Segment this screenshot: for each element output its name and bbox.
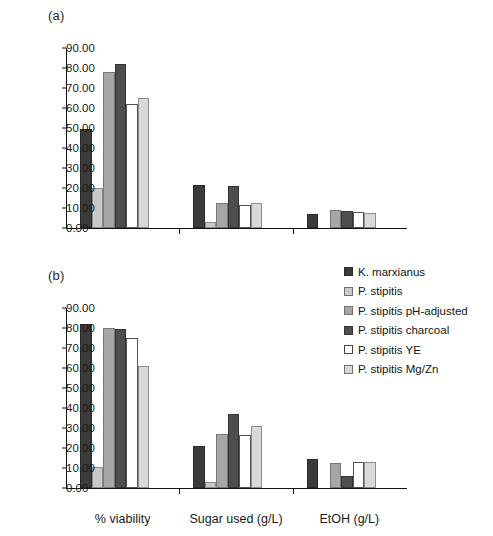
y-axis-tick-label: 30.00 (66, 422, 72, 434)
x-axis-line-b (66, 488, 407, 489)
y-axis-tick-label: 40.00 (66, 142, 72, 154)
bar (307, 214, 319, 228)
bar (103, 72, 115, 228)
y-axis-tick-label: 10.00 (66, 202, 72, 214)
bar (251, 203, 263, 228)
legend-swatch-icon (344, 326, 353, 335)
y-axis-tick-label: 90.00 (66, 42, 72, 54)
y-axis-tick-mark (62, 208, 66, 209)
bar (115, 64, 127, 228)
x-axis-category-labels: % viabilitySugar used (g/L)EtOH (g/L) (66, 508, 407, 530)
chart-panel-a: 0.0010.0020.0030.0040.0050.0060.0070.008… (0, 40, 420, 245)
bar (341, 211, 353, 228)
y-axis-tick-label: 10.00 (66, 462, 72, 474)
bar (126, 338, 138, 488)
legend-swatch-icon (344, 287, 353, 296)
bar-group (293, 48, 406, 228)
y-axis-tick-label: 70.00 (66, 82, 72, 94)
y-axis-tick-label: 30.00 (66, 162, 72, 174)
figure-bar-charts: (a) 0.0010.0020.0030.0040.0050.0060.0070… (0, 0, 493, 536)
legend-item: P. stipitis charcoal (344, 321, 493, 341)
legend-item-label: P. stipitis charcoal (358, 324, 449, 336)
bar-group (179, 48, 292, 228)
chart-legend: K. marxianusP. stipitisP. stipitis pH-ad… (344, 262, 493, 379)
y-axis-tick-label: 20.00 (66, 442, 72, 454)
bar (239, 435, 251, 488)
bar (216, 203, 228, 228)
bar (364, 213, 376, 228)
y-axis-tick-mark (62, 148, 66, 149)
bar (251, 426, 263, 488)
bar (330, 210, 342, 228)
y-axis-tick-label: 20.00 (66, 182, 72, 194)
bar (341, 476, 353, 488)
y-axis-tick-label: 60.00 (66, 362, 72, 374)
y-axis-tick-label: 90.00 (66, 302, 72, 314)
x-axis-line-a (66, 228, 407, 229)
y-axis-tick-label: 60.00 (66, 102, 72, 114)
bar (205, 222, 217, 228)
y-axis-tick-label: 50.00 (66, 122, 72, 134)
y-axis-tick-label: 50.00 (66, 382, 72, 394)
y-axis-tick-label: 0.00 (66, 482, 72, 494)
x-axis-category-label: Sugar used (g/L) (189, 512, 282, 526)
y-axis-tick-mark (62, 348, 66, 349)
legend-item-label: P. stipitis pH-adjusted (358, 305, 468, 317)
y-axis-tick-mark (62, 428, 66, 429)
legend-item-label: P. stipitis Mg/Zn (358, 363, 438, 375)
bar (115, 329, 127, 488)
bar (193, 446, 205, 488)
bar (239, 205, 251, 228)
y-axis-tick-mark (62, 308, 66, 309)
legend-swatch-icon (344, 345, 353, 354)
y-axis-tick-mark (62, 488, 66, 489)
bar (353, 212, 365, 228)
x-axis-category-label: % viability (95, 512, 151, 526)
y-axis-tick-mark (62, 128, 66, 129)
legend-item-label: K. marxianus (358, 266, 425, 278)
y-axis-tick-mark (62, 448, 66, 449)
x-axis-group-separator (179, 228, 180, 234)
bar (307, 459, 319, 488)
x-axis-group-separator (293, 488, 294, 494)
bar-group (66, 308, 179, 488)
legend-swatch-icon (344, 306, 353, 315)
y-axis-tick-label: 70.00 (66, 342, 72, 354)
bar (138, 366, 150, 488)
legend-item-label: P. stipitis YE (358, 344, 421, 356)
legend-item: P. stipitis (344, 282, 493, 302)
x-axis-group-separator (293, 228, 294, 234)
y-axis-tick-mark (62, 228, 66, 229)
y-axis-tick-mark (62, 68, 66, 69)
y-axis-tick-mark (62, 168, 66, 169)
y-axis-tick-mark (62, 48, 66, 49)
bar (216, 434, 228, 488)
bar (364, 462, 376, 488)
legend-swatch-icon (344, 267, 353, 276)
bar (138, 98, 150, 228)
y-axis-tick-label: 80.00 (66, 62, 72, 74)
bar (126, 104, 138, 228)
legend-swatch-icon (344, 365, 353, 374)
y-axis-tick-mark (62, 468, 66, 469)
plot-area-a (66, 48, 406, 228)
y-axis-tick-label: 80.00 (66, 322, 72, 334)
bar-group (66, 48, 179, 228)
bar (330, 463, 342, 488)
bar (228, 186, 240, 228)
x-axis-category-label: EtOH (g/L) (319, 512, 379, 526)
y-axis-tick-mark (62, 388, 66, 389)
bar (193, 185, 205, 228)
bar-group (179, 308, 292, 488)
panel-label-b: (b) (48, 268, 65, 283)
bar (353, 462, 365, 488)
y-axis-tick-label: 0.00 (66, 222, 72, 234)
bar (103, 328, 115, 488)
x-axis-group-separator (179, 488, 180, 494)
legend-item: P. stipitis pH-adjusted (344, 301, 493, 321)
y-axis-tick-mark (62, 328, 66, 329)
legend-item: P. stipitis YE (344, 340, 493, 360)
legend-item: K. marxianus (344, 262, 493, 282)
legend-item-label: P. stipitis (358, 285, 403, 297)
bar (205, 482, 217, 488)
